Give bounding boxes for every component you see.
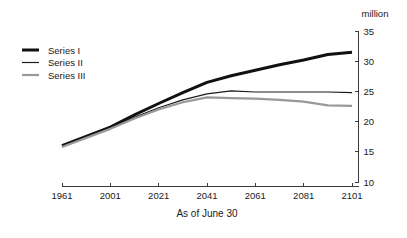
x-axis-tick-label: 2101: [341, 190, 362, 201]
x-axis-tick-label: 2081: [293, 190, 314, 201]
x-axis-tick-label: 1961: [51, 190, 72, 201]
x-axis-tick-label: 2041: [196, 190, 217, 201]
y-axis-tick-label: 25: [364, 86, 375, 97]
legend-layer: Series ISeries IISeries III: [22, 45, 86, 81]
x-axis-tick-label: 2021: [148, 190, 169, 201]
y-axis-tick-label: 30: [364, 56, 375, 67]
legend-label-2: Series II: [48, 57, 83, 68]
y-axis-unit: million: [362, 8, 389, 19]
axis-layer: 101520253035million196120012021204120612…: [51, 8, 388, 219]
y-axis-tick-label: 15: [364, 146, 375, 157]
legend-label-1: Series I: [48, 45, 80, 56]
x-axis-title-text: As of June 30: [176, 208, 238, 219]
x-axis-tick-label: 2061: [245, 190, 266, 201]
chart-canvas: 101520253035million196120012021204120612…: [0, 0, 407, 238]
y-axis-tick-label: 10: [364, 177, 375, 188]
series-layer: [62, 52, 352, 147]
legend-label-3: Series III: [48, 70, 86, 81]
line-chart: 101520253035million196120012021204120612…: [0, 0, 407, 238]
y-axis-tick-label: 35: [364, 26, 375, 37]
y-axis-tick-label: 20: [364, 116, 375, 127]
series-line-3: [62, 97, 352, 147]
series-line-2: [62, 91, 352, 147]
x-axis-tick-label: 2001: [100, 190, 121, 201]
